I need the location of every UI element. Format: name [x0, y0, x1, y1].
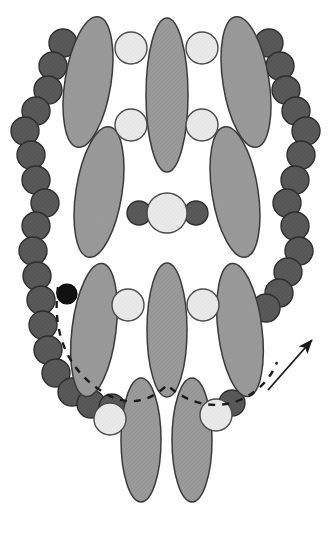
- dark-circle-l-12: [27, 286, 55, 314]
- ellipse-bottom-left: [121, 378, 161, 502]
- light-circle-tr: [186, 32, 218, 64]
- light-circle-ml: [115, 109, 147, 141]
- light-circle-center: [147, 193, 187, 233]
- light-circle-br: [187, 289, 219, 321]
- dark-circle-l-10: [19, 237, 47, 265]
- light-circle-bot-left: [94, 403, 126, 435]
- dark-circle-l-11: [23, 262, 51, 290]
- light-circle-tl: [115, 32, 147, 64]
- ellipse-bottom-right: [172, 378, 212, 502]
- dark-circle-r-06: [287, 141, 315, 169]
- black-circle-marker-group: [57, 284, 77, 304]
- black-circle-marker: [57, 284, 77, 304]
- dark-circle-l-06: [17, 141, 45, 169]
- light-circle-mr: [186, 109, 218, 141]
- ellipse-lower-center: [147, 263, 187, 397]
- diagram-canvas: [0, 0, 334, 534]
- light-circle-bl: [112, 289, 144, 321]
- dark-circle-l-13: [29, 311, 57, 339]
- dark-circle-r-05: [292, 117, 320, 145]
- ellipse-upper-center: [146, 18, 188, 172]
- schematic-diagram: [0, 0, 334, 534]
- dark-circle-l-02: [39, 52, 67, 80]
- dark-circle-l-09: [22, 212, 50, 240]
- dark-circle-r-09: [281, 212, 309, 240]
